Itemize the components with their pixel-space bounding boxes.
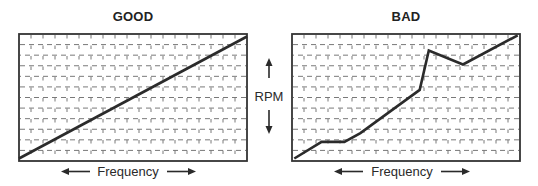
frequency-label-bad: Frequency	[371, 164, 433, 179]
frequency-annotation-good: Frequency	[61, 164, 196, 179]
good-chart	[19, 34, 247, 161]
frequency-right-arrow-icon	[188, 168, 196, 175]
rpm-down-arrow-icon	[266, 126, 273, 134]
rpm-annotation: RPM	[255, 58, 284, 134]
diagram-canvas: RPM Frequency Frequency	[0, 0, 538, 186]
rpm-label: RPM	[255, 89, 284, 104]
bad-chart	[292, 34, 520, 161]
frequency-label-good: Frequency	[97, 164, 159, 179]
rpm-up-arrow-icon	[266, 58, 273, 66]
frequency-right-arrow-icon	[462, 168, 470, 175]
frequency-annotation-bad: Frequency	[334, 164, 470, 179]
